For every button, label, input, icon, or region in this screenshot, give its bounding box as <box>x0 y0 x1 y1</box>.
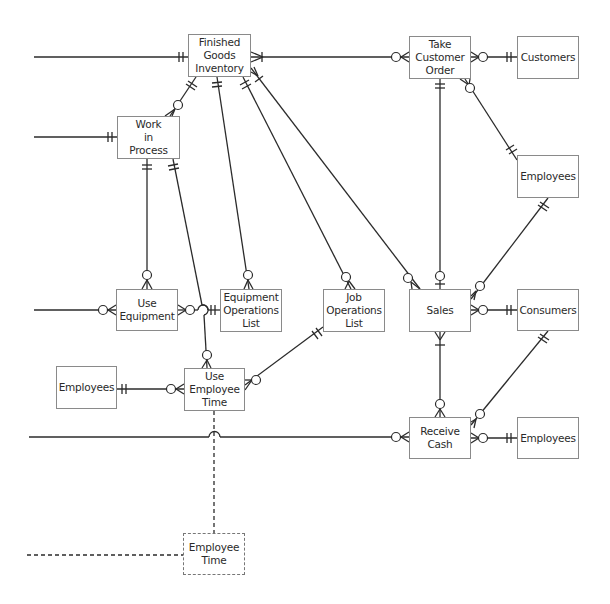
rel-sales-receive-cash <box>435 332 445 417</box>
entity-use-equipment: Use Equipment <box>116 289 178 331</box>
entity-work-in-process: Work in Process <box>117 116 180 159</box>
entity-label: Employees <box>59 381 115 394</box>
entity-customers: Customers <box>517 36 579 79</box>
rel-tco-customers <box>471 52 517 62</box>
entity-label: Employee Time <box>189 541 239 567</box>
rel-fgi-wip <box>165 77 197 116</box>
entity-employees-production: Employees <box>56 366 117 409</box>
entity-take-customer-order: Take Customer Order <box>409 36 471 79</box>
rel-use-employee-time-jol <box>245 327 323 390</box>
entity-label: Employees <box>520 432 576 445</box>
rel-consumers-receive-cash <box>471 331 549 428</box>
entity-label: Employees <box>520 170 576 183</box>
rel-tco-sales <box>435 79 445 289</box>
entity-equipment-operations-list: Equipment Operations List <box>220 289 282 332</box>
entity-employee-time: Employee Time <box>183 533 245 575</box>
rel-employees-sales <box>471 198 549 300</box>
rel-employees-use-employee-time <box>117 384 184 394</box>
entity-label: Use Equipment <box>119 297 174 323</box>
entity-sales: Sales <box>409 289 471 332</box>
rel-offpage-receive-cash <box>29 432 409 443</box>
rel-tco-employees <box>460 79 517 160</box>
entity-finished-goods-inventory: Finished Goods Inventory <box>188 34 251 77</box>
entity-consumers: Consumers <box>517 289 579 331</box>
rel-offpage-wip <box>34 132 117 142</box>
entity-label: Equipment Operations List <box>223 291 279 330</box>
entity-label: Receive Cash <box>420 425 460 451</box>
rel-fgi-jol <box>240 77 355 289</box>
rel-receive-cash-employees <box>471 433 517 443</box>
entity-use-employee-time: Use Employee Time <box>184 368 245 411</box>
entity-employees-cash: Employees <box>517 417 579 459</box>
entity-label: Work in Process <box>129 118 167 157</box>
rel-wip-use-equipment <box>142 159 152 289</box>
entity-label: Use Employee Time <box>189 370 239 409</box>
entity-label: Finished Goods Inventory <box>195 36 243 75</box>
entity-job-operations-list: Job Operations List <box>323 289 385 332</box>
entity-label: Take Customer Order <box>415 38 464 77</box>
entity-label: Customers <box>521 51 576 64</box>
rel-use-equipment-eol <box>178 305 220 315</box>
entity-label: Consumers <box>519 304 576 317</box>
rel-offpage-fgi <box>34 52 188 62</box>
entity-receive-cash: Receive Cash <box>409 417 471 459</box>
rel-fgi-eol <box>212 77 253 289</box>
rel-offpage-use-equipment <box>34 305 116 315</box>
entity-employees-sales: Employees <box>517 155 579 198</box>
rel-wip-use-employee-time <box>168 159 212 368</box>
rel-fgi-take-customer-order <box>251 52 409 62</box>
entity-label: Job Operations List <box>326 291 382 330</box>
rel-fgi-sales <box>251 67 420 289</box>
entity-label: Sales <box>427 304 454 317</box>
rel-sales-consumers <box>471 305 517 315</box>
